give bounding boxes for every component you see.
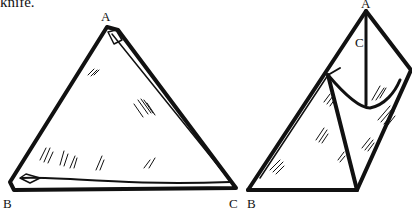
label-a-left: A xyxy=(101,9,110,25)
flat-triangle-figure xyxy=(10,27,236,190)
folding-illustration xyxy=(0,0,412,213)
hatching xyxy=(40,69,155,170)
triangle-inner-fold-edge xyxy=(112,34,232,183)
cone-left-double-edge xyxy=(260,75,328,178)
label-b-right: B xyxy=(247,196,256,212)
label-b-left: B xyxy=(3,196,12,212)
triangle-outline xyxy=(10,27,236,190)
triangle-inner-bottom-edge xyxy=(22,178,230,183)
cone-curved-rim xyxy=(328,75,400,108)
label-c-left: C xyxy=(229,196,238,212)
folded-cone-figure xyxy=(248,11,411,190)
label-a-right: A xyxy=(361,0,370,12)
label-c-right: C xyxy=(355,35,364,51)
